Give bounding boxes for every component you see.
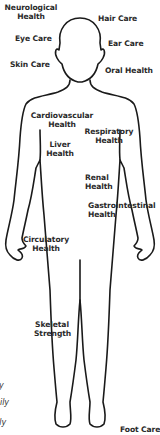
head-outline — [56, 18, 105, 82]
label-hair-care[interactable]: Hair Care — [98, 14, 137, 23]
label-skeletal-strength[interactable]: Skeletal Strength — [34, 320, 70, 338]
label-foot-care[interactable]: Foot Care — [120, 425, 160, 434]
label-eye-care[interactable]: Eye Care — [15, 34, 52, 43]
label-skin-care[interactable]: Skin Care — [10, 60, 50, 69]
cutoff-text-1: y — [0, 381, 4, 390]
label-renal-health[interactable]: Renal Health — [85, 173, 113, 191]
label-circulatory-health[interactable]: Circulatory Health — [22, 235, 70, 253]
cutoff-text-2: aily — [0, 398, 9, 407]
label-liver-health[interactable]: Liver Health — [46, 140, 74, 158]
label-ear-care[interactable]: Ear Care — [108, 39, 144, 48]
label-gastrointestinal-health[interactable]: Gastrointestinal Health — [88, 201, 156, 219]
left-body-outline — [6, 80, 80, 427]
label-respiratory-health[interactable]: Respiratory Health — [84, 127, 134, 145]
label-neurological-health[interactable]: Neurological Health — [2, 3, 60, 21]
cutoff-text-3: ily — [0, 418, 6, 427]
label-oral-health[interactable]: Oral Health — [105, 66, 153, 75]
